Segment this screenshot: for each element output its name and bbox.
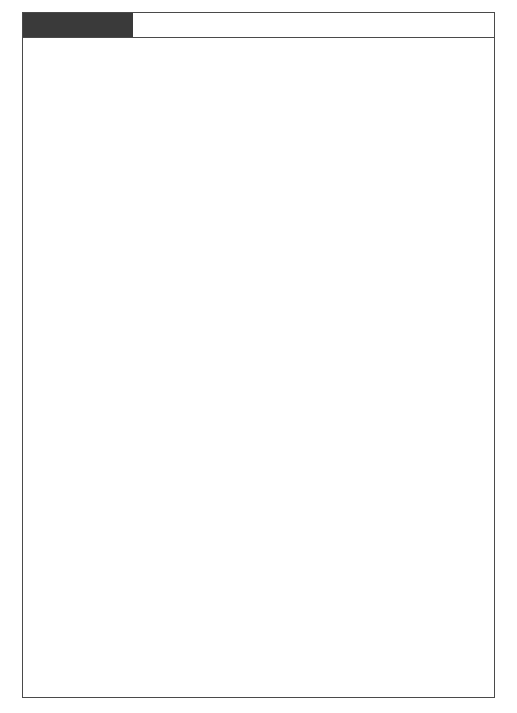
diagram-svg <box>0 0 517 713</box>
figure-container <box>0 0 517 713</box>
diagram-canvas <box>0 0 517 713</box>
